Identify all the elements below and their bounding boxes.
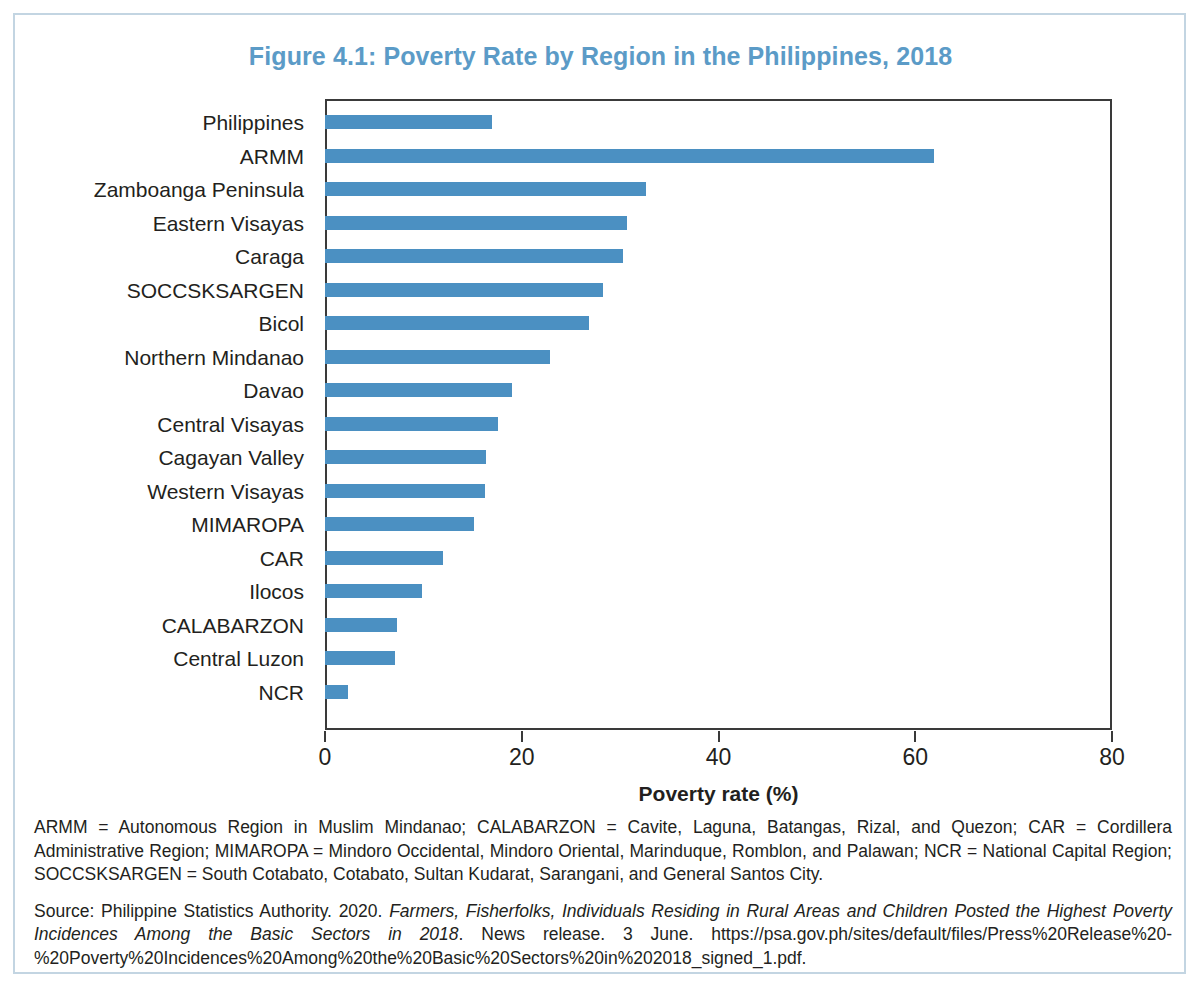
abbreviations-note: ARMM = Autonomous Region in Muslim Minda… <box>34 816 1172 887</box>
bar-chart: PhilippinesARMMZamboanga PeninsulaEaster… <box>0 0 1201 820</box>
x-axis-tick-mark <box>1111 731 1113 742</box>
x-axis-title: Poverty rate (%) <box>325 782 1112 806</box>
x-axis-tick-label: 20 <box>482 744 562 771</box>
figure-notes: ARMM = Autonomous Region in Muslim Minda… <box>34 816 1172 970</box>
x-axis: 020406080 <box>0 0 1201 820</box>
source-note: Source: Philippine Statistics Authority.… <box>34 900 1172 971</box>
source-prefix: Source: Philippine Statistics Authority.… <box>34 901 389 921</box>
x-axis-tick-mark <box>914 731 916 742</box>
x-axis-tick-mark <box>718 731 720 742</box>
figure-page: Figure 4.1: Poverty Rate by Region in th… <box>0 0 1201 990</box>
x-axis-tick-label: 60 <box>875 744 955 771</box>
x-axis-tick-label: 40 <box>679 744 759 771</box>
x-axis-tick-label: 80 <box>1072 744 1152 771</box>
x-axis-tick-mark <box>324 731 326 742</box>
x-axis-tick-label: 0 <box>285 744 365 771</box>
x-axis-tick-mark <box>521 731 523 742</box>
